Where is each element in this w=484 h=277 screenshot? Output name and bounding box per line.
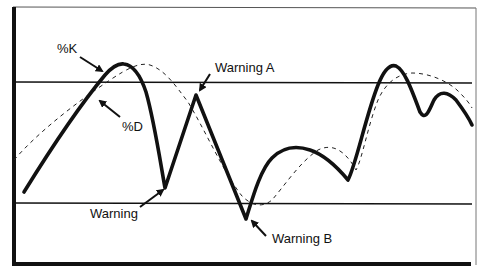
warning-b-arrow (252, 221, 266, 236)
chart-frame (12, 7, 476, 265)
percent-k-line (24, 64, 472, 219)
warning-arrow (140, 190, 163, 207)
frame-top (13, 7, 476, 8)
percent-d-line (14, 64, 472, 205)
d-arrow (100, 101, 120, 117)
stochastic-oscillator-chart: %K %D Warning A Warning Warning B (0, 0, 484, 277)
warning-label: Warning (90, 206, 138, 221)
upper-threshold-line (15, 82, 472, 83)
warning-a-label: Warning A (215, 60, 275, 75)
warning-b-label: Warning B (272, 231, 332, 246)
k-arrow (80, 57, 102, 71)
lower-threshold-line (15, 203, 472, 204)
percent-d-label: %D (122, 119, 143, 134)
percent-k-label: %K (57, 41, 78, 56)
